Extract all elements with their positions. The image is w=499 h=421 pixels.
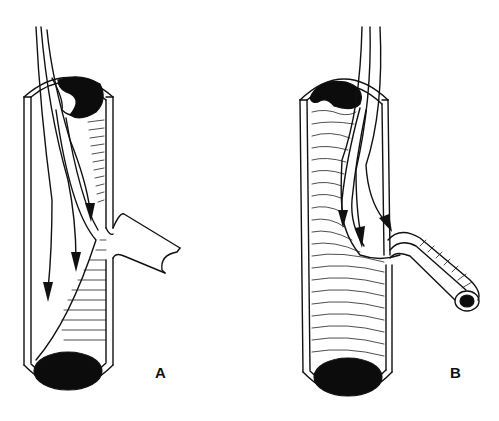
panel-label-a: A — [155, 364, 166, 381]
branch-hatching — [420, 240, 472, 288]
panel-b-vessel — [300, 79, 479, 396]
lumen-hatching — [312, 110, 384, 356]
panel-label-b: B — [450, 364, 461, 381]
flap-hatching — [62, 120, 106, 340]
panel-a-vessel — [24, 77, 180, 390]
vessel-diagram: A — [0, 0, 499, 421]
